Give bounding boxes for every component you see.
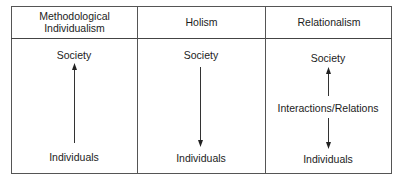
arrow-up-icon (326, 67, 331, 96)
arrow-down-icon (198, 67, 203, 147)
arrow-up-icon (72, 63, 77, 143)
arrow-down-icon (326, 118, 331, 149)
arrows-layer (0, 0, 404, 191)
